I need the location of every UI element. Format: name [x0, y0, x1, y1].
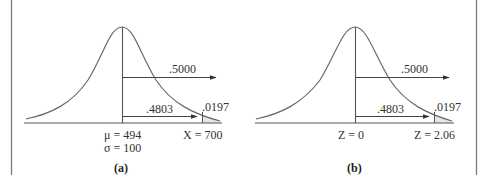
caption-a: (a)	[114, 161, 128, 175]
x-value-label-a: X = 700	[183, 128, 222, 142]
lower-arrow-label-b: .4803	[377, 102, 404, 116]
tail-label-b: .0197	[434, 100, 461, 114]
lower-arrow-label-a: .4803	[146, 102, 173, 116]
panel-b: .5000 .4803 .0197 Z = 0 Z = 2.06 (b)	[255, 27, 461, 175]
mean-label-a: μ = 494	[104, 128, 141, 142]
upper-arrow-label-b: .5000	[401, 62, 428, 76]
caption-b: (b)	[347, 161, 362, 175]
panel-a: .5000 .4803 .0197 μ = 494 σ = 100 X = 70…	[24, 27, 229, 175]
upper-arrow-label-a: .5000	[169, 62, 196, 76]
tail-label-a: .0197	[202, 100, 229, 114]
normal-distribution-diagram: .5000 .4803 .0197 μ = 494 σ = 100 X = 70…	[0, 0, 491, 185]
z-value-label-b: Z = 2.06	[414, 128, 455, 142]
sigma-label-a: σ = 100	[104, 141, 141, 155]
z-zero-label-b: Z = 0	[338, 128, 364, 142]
